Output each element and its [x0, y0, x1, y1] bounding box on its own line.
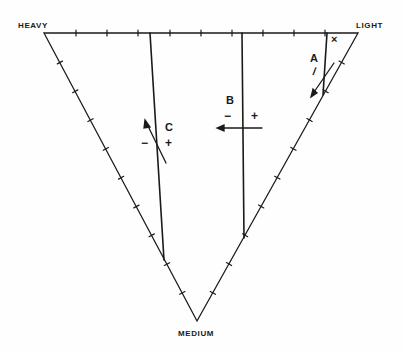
- diagram-canvas: [0, 0, 404, 352]
- left-side-ticks: [57, 61, 185, 294]
- cut-b-plus: +: [251, 109, 258, 123]
- ternary-diagram: HEAVY LIGHT MEDIUM A × / B − + C − +: [0, 0, 404, 352]
- cut-line-c: [150, 33, 164, 260]
- cut-label-b: B: [226, 94, 234, 106]
- cut-line-b: [242, 33, 244, 238]
- cut-label-c: C: [165, 121, 173, 133]
- cut-b-minus: −: [224, 109, 231, 123]
- cut-c-plus: +: [165, 136, 172, 150]
- vertex-label-light: LIGHT: [356, 21, 383, 30]
- vertex-label-heavy: HEAVY: [18, 21, 48, 30]
- cut-label-a: A: [310, 52, 318, 64]
- cut-line-a: [323, 33, 327, 95]
- cut-c-minus: −: [141, 136, 148, 150]
- vertex-label-medium: MEDIUM: [178, 329, 214, 338]
- arrow-b-icon: [217, 125, 262, 131]
- cut-a-plus: ×: [331, 33, 337, 45]
